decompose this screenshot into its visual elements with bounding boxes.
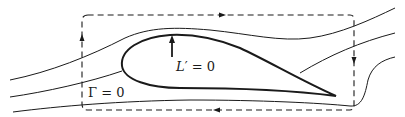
arrow-right-icon xyxy=(219,13,226,18)
airfoil-outline xyxy=(122,35,336,96)
lift-value: = 0 xyxy=(188,59,215,74)
lift-arrow-icon xyxy=(169,35,175,57)
arrow-up-icon xyxy=(80,34,85,41)
lift-label: L′ = 0 xyxy=(176,60,215,73)
arrow-down-icon xyxy=(352,57,357,64)
streamline-stagnation-rear xyxy=(300,33,395,73)
arrow-left-icon xyxy=(213,108,220,113)
circulation-label: Γ = 0 xyxy=(88,86,124,99)
lift-symbol: L xyxy=(176,59,185,74)
